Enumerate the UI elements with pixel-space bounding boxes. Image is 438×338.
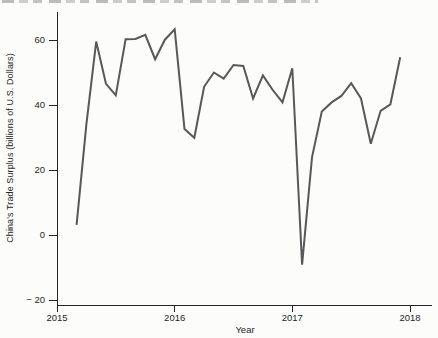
y-tick-label: 40 <box>34 99 45 110</box>
y-tick-label: 60 <box>34 34 45 45</box>
x-tick-label: 2018 <box>399 312 420 323</box>
y-tick-label: 0 <box>40 229 45 240</box>
y-tick-group: 6040200− 20 <box>26 34 57 305</box>
x-tick-label: 2015 <box>46 312 67 323</box>
y-axis-title: China's Trade Surplus (billions of U.S. … <box>5 53 15 243</box>
x-tick-group: 2015201620172018 <box>46 305 420 323</box>
chart-figure: 2015201620172018 6040200− 20 Year China'… <box>0 0 438 338</box>
x-axis-title: Year <box>235 324 254 335</box>
axes <box>57 12 432 305</box>
trade-surplus-line <box>77 29 401 264</box>
x-tick-label: 2017 <box>282 312 303 323</box>
y-tick-label: − 20 <box>26 294 45 305</box>
x-tick-label: 2016 <box>164 312 185 323</box>
line-chart: 2015201620172018 6040200− 20 Year China'… <box>0 0 438 338</box>
y-tick-label: 20 <box>34 164 45 175</box>
